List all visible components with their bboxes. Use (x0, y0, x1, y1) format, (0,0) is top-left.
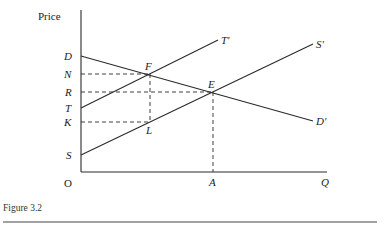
y-axis-title: Price (38, 10, 61, 22)
supply-curve-SS (81, 44, 313, 155)
y-label-D: D (63, 50, 72, 62)
supply-curve-TT (81, 40, 218, 108)
point-label-E: E (207, 78, 215, 90)
point-label-F: F (144, 60, 152, 72)
x-label-A: A (208, 176, 216, 188)
origin-label: O (64, 177, 72, 189)
y-label-N: N (63, 68, 72, 80)
y-label-S: S (66, 149, 72, 161)
curve-label-S-prime: S' (316, 38, 325, 50)
y-label-R: R (64, 86, 72, 98)
figure-caption: Figure 3.2 (3, 203, 42, 213)
y-label-K: K (63, 116, 72, 128)
supply-demand-diagram: Price Q O D N R T K S A F E L T' S' D' F… (0, 0, 386, 233)
demand-curve-DD (81, 56, 313, 121)
point-label-L: L (145, 124, 152, 136)
x-axis-title: Q (321, 176, 329, 188)
y-label-T: T (65, 102, 72, 114)
curve-label-T-prime: T' (221, 34, 230, 46)
curve-label-D-prime: D' (315, 115, 327, 127)
